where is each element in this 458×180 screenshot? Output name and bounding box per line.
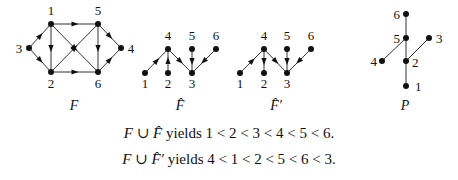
- caption-ordering: 4 < 1 < 2 < 5 < 6 < 3.: [207, 151, 336, 167]
- union-symbol: ∪: [133, 125, 153, 141]
- node-label: 5: [95, 3, 102, 18]
- node-3: [426, 35, 432, 41]
- node-5: [95, 21, 101, 27]
- node-label: 6: [213, 28, 220, 43]
- node-4: [261, 46, 267, 52]
- node-label: 2: [48, 76, 55, 91]
- node-label: 3: [284, 76, 291, 91]
- node-2: [48, 69, 54, 75]
- node-label: 4: [261, 28, 268, 43]
- caption-union-f-fhat: F ∪ F̂ yields 1 < 2 < 3 < 4 < 5 < 6.: [0, 124, 458, 142]
- arrowhead-icon: [95, 45, 100, 52]
- node-4: [165, 46, 171, 52]
- caption-term-f: F: [124, 125, 133, 141]
- node-label: 3: [16, 41, 23, 56]
- caption-term-fhat: F̂: [153, 125, 162, 141]
- arrowhead-icon: [189, 58, 194, 65]
- node-2: [403, 58, 409, 64]
- node-6: [308, 46, 314, 52]
- node-5: [189, 46, 195, 52]
- node-label: 4: [371, 54, 378, 69]
- node-6: [95, 69, 101, 75]
- node-6: [403, 11, 409, 17]
- diagram-P: 123456P: [371, 7, 443, 113]
- node-5: [284, 46, 290, 52]
- node-label: 3: [189, 76, 196, 91]
- diagram-caption: F̂: [175, 98, 185, 113]
- caption-term-f: F: [122, 151, 131, 167]
- node-label: 6: [308, 28, 315, 43]
- node-3: [26, 45, 32, 51]
- node-label: 4: [165, 28, 172, 43]
- node-label: 1: [237, 76, 244, 91]
- caption-term-fhatprime: F̂′: [151, 151, 163, 167]
- node-label: 1: [142, 76, 149, 91]
- node-label: 2: [261, 76, 268, 91]
- union-symbol: ∪: [131, 151, 151, 167]
- diagram-Fhat: 123456F̂: [142, 28, 220, 113]
- caption-union-f-fhatprime: F ∪ F̂′ yields 4 < 1 < 2 < 5 < 6 < 3.: [0, 150, 458, 168]
- node-label: 1: [415, 79, 422, 94]
- diagram-caption: F: [69, 98, 79, 113]
- caption-verb: yields: [164, 151, 207, 167]
- node-label: 3: [436, 31, 443, 46]
- node-1: [48, 21, 54, 27]
- arrowhead-icon: [284, 58, 289, 65]
- caption-ordering: 1 < 2 < 3 < 4 < 5 < 6.: [206, 125, 335, 141]
- node-4: [118, 45, 124, 51]
- diagram-Fhatprime: 123456F̂′: [237, 28, 315, 113]
- diagram-F: 123456F: [16, 3, 135, 113]
- node-label: 4: [128, 41, 135, 56]
- node-label: 5: [189, 28, 196, 43]
- arrowhead-icon: [165, 57, 170, 64]
- arrowhead-icon: [72, 21, 79, 26]
- node-label: 5: [394, 31, 401, 46]
- arrowhead-icon: [72, 69, 79, 74]
- node-4: [379, 58, 385, 64]
- arrowhead-icon: [48, 45, 53, 52]
- node-label: 2: [412, 55, 419, 70]
- node-label: 2: [165, 76, 172, 91]
- node-1: [403, 83, 409, 89]
- node-label: 5: [284, 28, 291, 43]
- node-label: 1: [48, 3, 55, 18]
- graph-figure: 123456F123456F̂123456F̂′123456P: [0, 0, 458, 120]
- diagram-caption: F̂′: [269, 98, 283, 113]
- node-label: 6: [394, 7, 401, 22]
- node-6: [213, 46, 219, 52]
- arrowhead-icon: [261, 58, 266, 65]
- caption-verb: yields: [162, 125, 205, 141]
- node-5: [403, 35, 409, 41]
- node-label: 6: [95, 76, 102, 91]
- diagram-caption: P: [400, 98, 410, 113]
